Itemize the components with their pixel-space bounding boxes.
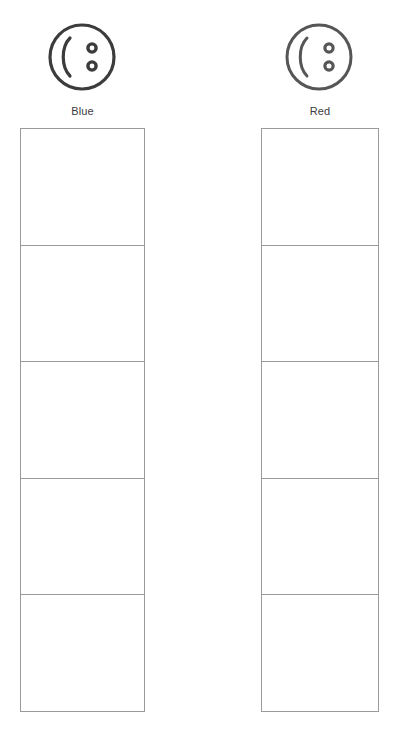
table-row[interactable] (21, 362, 144, 479)
grid-table-red (261, 128, 379, 712)
table-row[interactable] (262, 129, 378, 246)
grid-table-blue (20, 128, 145, 712)
table-row[interactable] (21, 129, 144, 246)
rotated-smiley-face-icon (283, 21, 355, 93)
column-label-blue: Blue (20, 104, 145, 118)
table-row[interactable] (262, 595, 378, 712)
table-row[interactable] (262, 362, 378, 479)
rotated-smiley-face-icon (46, 21, 118, 93)
table-row[interactable] (262, 479, 378, 596)
column-label-red: Red (261, 104, 379, 118)
table-row[interactable] (21, 246, 144, 363)
table-row[interactable] (262, 246, 378, 363)
worksheet-canvas: Blue Red (0, 0, 397, 736)
table-row[interactable] (21, 479, 144, 596)
table-row[interactable] (21, 595, 144, 712)
